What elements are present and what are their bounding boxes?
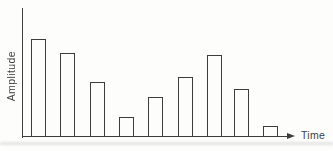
bar-sample-3 [90, 82, 105, 138]
y-axis-line [22, 8, 23, 138]
x-axis-line [22, 136, 288, 137]
pulse-amplitude-bar-chart: Amplitude Time [0, 0, 333, 151]
bar-sample-7 [207, 55, 222, 138]
bar-sample-4 [119, 117, 134, 138]
bar-sample-5 [148, 97, 163, 137]
bar-sample-2 [60, 53, 75, 137]
scan-artifact [0, 142, 333, 145]
x-axis-label: Time [301, 129, 325, 141]
y-axis-label: Amplitude [5, 51, 17, 101]
bar-sample-8 [234, 89, 249, 137]
x-axis-arrowhead-icon [287, 133, 295, 139]
bar-sample-1 [31, 39, 46, 137]
bar-sample-6 [178, 77, 193, 138]
